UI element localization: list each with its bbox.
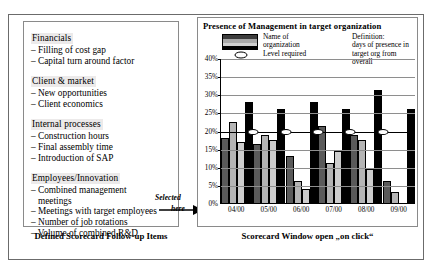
level-required-marker bbox=[248, 129, 259, 135]
grid-line bbox=[221, 77, 415, 78]
x-axis-tick-label: 08/00 bbox=[358, 206, 374, 218]
x-axis-labels: 04/0005/0006/0007/0008/0009/00 bbox=[220, 206, 415, 218]
level-required-marker bbox=[280, 129, 291, 135]
scorecard-group: Employees/Innovation– Combined managemen… bbox=[31, 167, 172, 238]
y-axis-tick-label: 15% bbox=[205, 146, 218, 154]
grid-line bbox=[221, 59, 415, 60]
bar[interactable] bbox=[277, 109, 285, 203]
y-axis-tick bbox=[218, 150, 221, 151]
scorecard-group: Internal processes– Construction hours– … bbox=[31, 113, 172, 163]
series-swatch-icon bbox=[222, 34, 258, 50]
y-axis-tick-label: 35% bbox=[205, 73, 218, 81]
scorecard-item[interactable]: – Meetings with target employees bbox=[31, 206, 172, 217]
grid-line bbox=[221, 168, 415, 169]
scorecard-window: Presence of Management in target organiz… bbox=[197, 17, 418, 227]
x-axis-tick-label: 09/00 bbox=[391, 206, 407, 218]
y-axis-labels: 0%5%10%15%20%25%30%35%40% bbox=[198, 59, 220, 204]
y-axis-tick bbox=[218, 186, 221, 187]
chart-legend: Name of organization Level required Defi… bbox=[222, 33, 418, 59]
scorecard-group-heading: Internal processes bbox=[31, 119, 103, 130]
scorecard-item[interactable]: – Final assembly time bbox=[31, 142, 172, 153]
bar[interactable] bbox=[261, 135, 269, 203]
y-axis-tick-label: 40% bbox=[205, 55, 218, 63]
bar[interactable] bbox=[383, 181, 391, 203]
level-required-marker bbox=[345, 129, 356, 135]
chart-title: Presence of Management in target organiz… bbox=[198, 18, 417, 31]
scorecard-item[interactable]: – Combined management meetings bbox=[31, 185, 172, 206]
scorecard-item-list: – Construction hours– Final assembly tim… bbox=[31, 131, 172, 163]
scorecard-item[interactable]: – Construction hours bbox=[31, 131, 172, 142]
scorecard-item[interactable]: – Client economics bbox=[31, 99, 172, 110]
y-axis-tick-label: 10% bbox=[205, 164, 218, 172]
right-panel-caption: Scorecard Window open „on click“ bbox=[197, 231, 418, 241]
legend-series-text: Name of organization Level required bbox=[263, 33, 306, 58]
bar[interactable] bbox=[326, 163, 334, 203]
slide-frame: Financials– Filling of cost gap– Capital… bbox=[8, 14, 424, 260]
level-required-ellipse-icon bbox=[234, 51, 248, 59]
scorecard-item[interactable]: – Introduction of SAP bbox=[31, 153, 172, 164]
x-axis-tick-label: 05/00 bbox=[261, 206, 277, 218]
bar[interactable] bbox=[407, 109, 415, 203]
bar[interactable] bbox=[221, 138, 229, 203]
bar[interactable] bbox=[350, 135, 358, 203]
y-axis-tick-label: 30% bbox=[205, 91, 218, 99]
y-axis-tick-label: 25% bbox=[205, 109, 218, 117]
y-axis-tick-label: 0% bbox=[208, 200, 218, 208]
legend-level-label: Level required bbox=[263, 50, 306, 58]
scorecard-item[interactable]: – New opportunities bbox=[31, 88, 172, 99]
plot-canvas bbox=[220, 59, 415, 204]
bar[interactable] bbox=[302, 189, 310, 203]
y-axis-tick-label: 20% bbox=[205, 128, 218, 136]
bar[interactable] bbox=[245, 102, 253, 203]
scorecard-group: Financials– Filling of cost gap– Capital… bbox=[31, 27, 172, 66]
left-panel-caption: Defined Scorecard Follow-up Items bbox=[23, 231, 179, 241]
scorecard-item-list: – New opportunities– Client economics bbox=[31, 88, 172, 109]
bar[interactable] bbox=[334, 151, 342, 203]
scorecard-group: Client & market– New opportunities– Clie… bbox=[31, 70, 172, 109]
grid-line bbox=[221, 150, 415, 151]
bar[interactable] bbox=[229, 122, 237, 203]
x-axis-tick-label: 07/00 bbox=[326, 206, 342, 218]
scorecard-item[interactable]: – Filling of cost gap bbox=[31, 45, 172, 56]
y-axis-tick bbox=[218, 113, 221, 114]
grid-line bbox=[221, 113, 415, 114]
grid-line bbox=[221, 186, 415, 187]
scorecard-group-heading: Employees/Innovation bbox=[31, 173, 120, 184]
bar[interactable] bbox=[294, 181, 302, 203]
bar[interactable] bbox=[237, 142, 245, 203]
bar[interactable] bbox=[253, 144, 261, 203]
y-axis-tick bbox=[218, 77, 221, 78]
y-axis-tick-label: 5% bbox=[208, 182, 218, 190]
bar[interactable] bbox=[391, 192, 399, 203]
y-axis-tick bbox=[218, 59, 221, 60]
scorecard-item[interactable]: – Number of job rotations bbox=[31, 217, 172, 228]
level-required-marker bbox=[377, 129, 388, 135]
slide-root: Financials– Filling of cost gap– Capital… bbox=[0, 0, 432, 273]
y-axis-tick bbox=[218, 168, 221, 169]
scorecard-group-heading: Financials bbox=[31, 33, 73, 44]
bar[interactable] bbox=[286, 156, 294, 203]
grid-line bbox=[221, 95, 415, 96]
y-axis-tick bbox=[218, 95, 221, 96]
scorecard-group-heading: Client & market bbox=[31, 76, 96, 87]
scorecard-group-list: Financials– Filling of cost gap– Capital… bbox=[31, 27, 172, 238]
bar[interactable] bbox=[342, 109, 350, 203]
chart-plot-area: 0%5%10%15%20%25%30%35%40% 04/0005/0006/0… bbox=[198, 59, 419, 227]
x-axis-tick-label: 06/00 bbox=[293, 206, 309, 218]
bar[interactable] bbox=[318, 126, 326, 203]
bar[interactable] bbox=[310, 102, 318, 203]
x-axis-tick-label: 04/00 bbox=[228, 206, 244, 218]
scorecard-item[interactable]: – Capital turn around factor bbox=[31, 56, 172, 67]
scorecard-item-list: – Filling of cost gap– Capital turn arou… bbox=[31, 45, 172, 66]
level-required-marker bbox=[313, 129, 324, 135]
